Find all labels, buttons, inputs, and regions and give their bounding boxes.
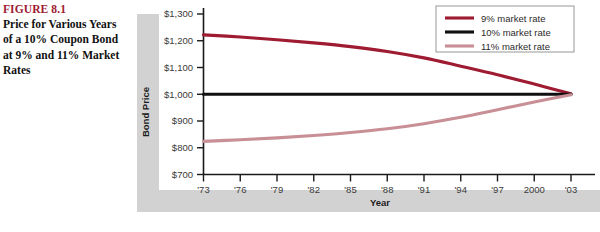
chart: Bond Price Year $1,300$1,200$1,100$1,000… <box>133 0 600 226</box>
bond-price-line-chart: Bond Price Year $1,300$1,200$1,100$1,000… <box>133 0 600 226</box>
y-tick-label: $1,300 <box>164 8 193 19</box>
x-tick-label: 2000 <box>524 184 545 195</box>
x-axis-title: Year <box>370 197 390 208</box>
y-tick-label: $1,200 <box>164 35 193 46</box>
x-tick-label: '97 <box>491 184 503 195</box>
y-tick-label: $800 <box>172 142 193 153</box>
x-tick-label: '76 <box>234 184 246 195</box>
x-tick-label: '85 <box>344 184 356 195</box>
y-tick-label: $1,100 <box>164 62 193 73</box>
y-tick-label: $700 <box>172 169 193 180</box>
x-tick-label: '79 <box>271 184 283 195</box>
x-tick-label: '82 <box>308 184 320 195</box>
legend-label: 11% market rate <box>481 41 550 52</box>
figure-container: FIGURE 8.1 Price for Various Years of a … <box>0 0 600 232</box>
x-tick-label: '73 <box>197 184 209 195</box>
figure-number: FIGURE 8.1 <box>3 2 125 16</box>
figure-caption-text: Price for Various Years of a 10% Coupon … <box>3 17 125 79</box>
legend-label: 9% market rate <box>481 13 545 24</box>
x-tick-label: '94 <box>455 184 467 195</box>
y-tick-label: $900 <box>172 115 193 126</box>
x-tick-label: '03 <box>565 184 577 195</box>
legend-label: 10% market rate <box>481 27 551 38</box>
x-tick-label: '88 <box>381 184 393 195</box>
chart-legend: 9% market rate10% market rate11% market … <box>436 6 574 52</box>
y-tick-label: $1,000 <box>164 89 193 100</box>
y-axis-title: Bond Price <box>140 87 151 137</box>
x-tick-label: '91 <box>418 184 430 195</box>
figure-caption: FIGURE 8.1 Price for Various Years of a … <box>3 2 125 79</box>
